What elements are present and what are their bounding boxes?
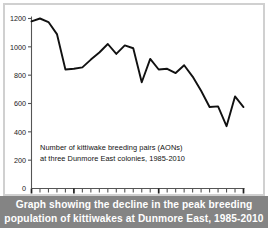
y-tick-label: 800	[14, 71, 26, 80]
y-tick-label: 400	[14, 128, 26, 137]
line-chart: 020040060080010001200 1985199020002010	[0, 0, 268, 196]
caption-bar: Graph showing the decline in the peak br…	[0, 196, 268, 228]
y-tick-label: 1000	[10, 43, 26, 52]
y-tick-label: 200	[14, 156, 26, 165]
y-tick-label: 600	[14, 99, 26, 108]
caption-line-2: population of kittiwakes at Dunmore East…	[4, 212, 263, 226]
y-tick-label: 1200	[10, 14, 26, 23]
y-axis: 020040060080010001200	[10, 14, 32, 193]
annotation-line-2: at three Dunmore East colonies, 1985-201…	[40, 154, 225, 165]
caption-line-1: Graph showing the decline in the peak br…	[16, 198, 253, 212]
series-line	[32, 19, 244, 127]
data-series-line	[32, 19, 244, 127]
figure-kittiwake-decline: 020040060080010001200 1985199020002010 N…	[0, 0, 268, 228]
chart-annotation: Number of kittiwake breeding pairs (AONs…	[40, 143, 225, 164]
annotation-line-1: Number of kittiwake breeding pairs (AONs…	[40, 143, 225, 154]
x-axis: 1985199020002010	[32, 189, 245, 197]
chart-plot-area: 020040060080010001200 1985199020002010	[0, 0, 268, 196]
y-tick-label: 0	[22, 184, 26, 193]
